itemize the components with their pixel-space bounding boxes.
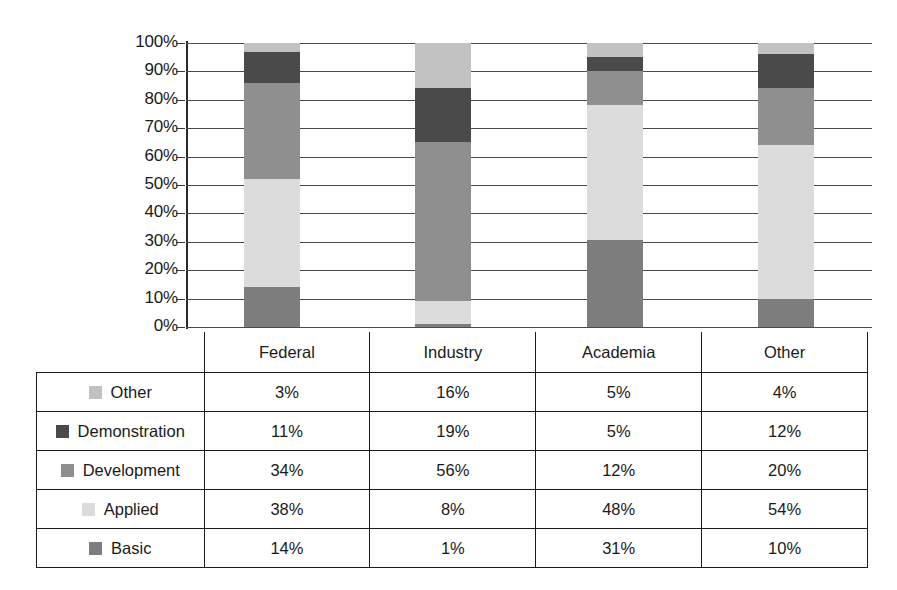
table-header-row: FederalIndustryAcademiaOther [37, 332, 868, 373]
table-cell-value: 31% [536, 529, 702, 568]
y-axis-tick-mark [176, 270, 185, 271]
legend-label: Basic [111, 539, 151, 557]
y-axis-labels: 100%90%80%70%60%50%40%30%20%10%0% [108, 43, 178, 327]
legend-label: Development [83, 461, 180, 479]
legend-swatch-icon [82, 503, 95, 516]
table-header-cell: Federal [204, 332, 370, 373]
y-axis-tick-label: 70% [108, 117, 178, 137]
data-table: FederalIndustryAcademiaOtherOther3%16%5%… [36, 332, 868, 568]
bar-segment-applied [244, 179, 300, 287]
y-axis-tick-label: 20% [108, 259, 178, 279]
y-axis-tick-label: 50% [108, 174, 178, 194]
y-axis-tick-label: 80% [108, 89, 178, 109]
y-axis-tick-mark [176, 128, 185, 129]
y-axis-tick-label: 60% [108, 146, 178, 166]
bar-segment-demonstration [587, 57, 643, 71]
table-row: Development34%56%12%20% [37, 451, 868, 490]
table-cell-value: 4% [702, 373, 868, 412]
y-axis-tick-mark [176, 157, 185, 158]
stacked-bar [587, 43, 643, 327]
legend-swatch-icon [61, 464, 74, 477]
table-cell-value: 1% [370, 529, 536, 568]
table-cell-value: 11% [204, 412, 370, 451]
table-cell-value: 10% [702, 529, 868, 568]
stacked-bar [244, 43, 300, 327]
legend-label: Other [111, 383, 152, 401]
table-cell-value: 20% [702, 451, 868, 490]
bar-segment-other [244, 43, 300, 52]
y-axis-tick-label: 40% [108, 202, 178, 222]
stacked-bar [415, 43, 471, 327]
table-cell-value: 54% [702, 490, 868, 529]
table-row: Basic14%1%31%10% [37, 529, 868, 568]
bar-segment-demonstration [415, 88, 471, 142]
table-header-cell: Academia [536, 332, 702, 373]
table-header-cell: Industry [370, 332, 536, 373]
bar-segment-basic [244, 287, 300, 327]
bar-segment-other [758, 43, 814, 54]
legend-item-applied: Applied [37, 490, 205, 529]
legend-item-development: Development [37, 451, 205, 490]
legend-item-demonstration: Demonstration [37, 412, 205, 451]
bar-segment-development [244, 83, 300, 180]
bar-segment-basic [758, 299, 814, 327]
table-cell-value: 3% [204, 373, 370, 412]
y-axis-tick-mark [176, 71, 185, 72]
legend-swatch-icon [56, 425, 69, 438]
table-cell-value: 12% [702, 412, 868, 451]
y-axis-tick-mark [176, 327, 185, 328]
table-cell-value: 16% [370, 373, 536, 412]
chart-page: 100%90%80%70%60%50%40%30%20%10%0% Federa… [0, 0, 897, 590]
y-axis-tick-label: 10% [108, 288, 178, 308]
bar-segment-applied [758, 145, 814, 298]
table-cell-value: 34% [204, 451, 370, 490]
legend-swatch-icon [89, 386, 102, 399]
y-axis-tick-mark [176, 43, 185, 44]
plot-area [186, 43, 872, 327]
table-cell-value: 56% [370, 451, 536, 490]
y-axis-tick-label: 30% [108, 231, 178, 251]
table-cell-value: 48% [536, 490, 702, 529]
bar-segment-development [758, 88, 814, 145]
bar-segment-applied [415, 301, 471, 324]
y-axis-tick-mark [176, 213, 185, 214]
table-header-cell: Other [702, 332, 868, 373]
bar-segment-development [587, 71, 643, 105]
bar-segment-other [415, 43, 471, 88]
table-cell-value: 12% [536, 451, 702, 490]
legend-item-other: Other [37, 373, 205, 412]
legend-label: Applied [104, 500, 159, 518]
bar-segment-demonstration [758, 54, 814, 88]
bar-segment-development [415, 142, 471, 301]
table-cell-value: 8% [370, 490, 536, 529]
bar-segment-demonstration [244, 52, 300, 83]
y-axis-tick-mark [176, 242, 185, 243]
table-cell-value: 19% [370, 412, 536, 451]
table-cell-value: 5% [536, 412, 702, 451]
y-axis-tick-mark [176, 185, 185, 186]
table-cell-value: 14% [204, 529, 370, 568]
y-axis-tick-label: 90% [108, 60, 178, 80]
legend-label: Demonstration [78, 422, 185, 440]
y-axis-tick-mark [176, 299, 185, 300]
bar-segment-other [587, 43, 643, 57]
table-row: Other3%16%5%4% [37, 373, 868, 412]
table-cell-value: 38% [204, 490, 370, 529]
legend-swatch-icon [89, 542, 102, 555]
table-row: Demonstration11%19%5%12% [37, 412, 868, 451]
data-table-container: FederalIndustryAcademiaOtherOther3%16%5%… [36, 332, 868, 570]
bar-segment-applied [587, 105, 643, 240]
y-axis-tick-mark [176, 100, 185, 101]
table-cell-value: 5% [536, 373, 702, 412]
gridline [186, 327, 872, 328]
legend-item-basic: Basic [37, 529, 205, 568]
y-axis-tick-label: 100% [108, 32, 178, 52]
stacked-bar [758, 43, 814, 327]
bar-segment-basic [587, 240, 643, 327]
table-header-label-cell [37, 332, 205, 373]
table-row: Applied38%8%48%54% [37, 490, 868, 529]
bar-segment-basic [415, 324, 471, 327]
